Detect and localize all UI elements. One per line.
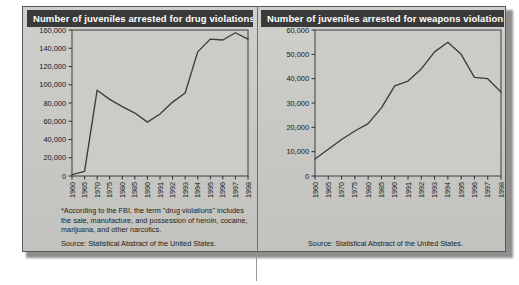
- chart-source-weapons-violations: Source: Statistical Abstract of the Unit…: [308, 239, 508, 249]
- x-axis-tick-label: 1991: [156, 182, 165, 198]
- x-axis-tick-label: 1980: [364, 182, 373, 198]
- panel-drug-violations: Number of juveniles arrested for drug vi…: [23, 7, 257, 253]
- figure-frame: Number of juveniles arrested for drug vi…: [22, 6, 506, 252]
- chart-source-drug-violations: Source: Statistical Abstract of the Unit…: [61, 239, 256, 249]
- x-axis-tick-label: 1990: [390, 182, 399, 198]
- divider-tail: [256, 252, 257, 281]
- y-axis-tick-label: 60,000: [43, 117, 66, 126]
- y-axis-tick-label: 140,000: [39, 44, 66, 53]
- x-axis-tick-label: 1998: [244, 182, 253, 198]
- x-axis-tick-label: 1996: [218, 182, 227, 198]
- y-axis-tick-label: 20,000: [286, 123, 309, 132]
- x-axis-tick-label: 1994: [443, 182, 452, 198]
- figure-root: Number of juveniles arrested for drug vi…: [0, 0, 519, 285]
- x-axis-tick-label: 1970: [337, 182, 346, 198]
- y-axis-tick-label: 100,000: [39, 80, 66, 89]
- chart-footnote-drug-violations: *According to the FBI, the term "drug vi…: [61, 206, 251, 235]
- x-axis-tick-label: 1980: [118, 182, 127, 198]
- x-axis-tick-label: 1975: [350, 182, 359, 198]
- x-axis-tick-label: 1996: [470, 182, 479, 198]
- x-axis-tick-label: 1991: [404, 182, 413, 198]
- panel-weapons-violations: Number of juveniles arrested for weapons…: [258, 7, 507, 253]
- y-axis-tick-label: 20,000: [43, 153, 66, 162]
- y-axis-tick-label: 0: [62, 172, 66, 181]
- y-axis-tick-label: 160,000: [39, 27, 66, 35]
- x-axis-tick-label: 1995: [457, 182, 466, 198]
- plot-area: [72, 30, 248, 176]
- y-axis-tick-label: 60,000: [286, 27, 309, 35]
- y-axis-tick-label: 0: [305, 172, 309, 181]
- y-axis-tick-label: 40,000: [286, 74, 309, 83]
- x-axis-tick-label: 1965: [324, 182, 333, 198]
- y-axis-tick-label: 120,000: [39, 62, 66, 71]
- y-axis-tick-label: 50,000: [286, 50, 309, 59]
- plot-area: [315, 30, 501, 176]
- chart-svg-drug-violations: 020,00040,00060,00080,000100,000120,0001…: [23, 27, 257, 207]
- y-axis-tick-label: 30,000: [286, 99, 309, 108]
- x-axis-tick-label: 1990: [143, 182, 152, 198]
- x-axis-tick-label: 1997: [483, 182, 492, 198]
- y-axis-tick-label: 80,000: [43, 99, 66, 108]
- x-axis-tick-label: 1975: [105, 182, 114, 198]
- x-axis-tick-label: 1960: [311, 182, 320, 198]
- x-axis-tick-label: 1993: [181, 182, 190, 198]
- x-axis-tick-label: 1994: [193, 182, 202, 198]
- y-axis-tick-label: 40,000: [43, 135, 66, 144]
- y-axis-tick-label: 10,000: [286, 147, 309, 156]
- x-axis-tick-label: 1992: [168, 182, 177, 198]
- x-axis-tick-label: 1993: [430, 182, 439, 198]
- x-axis-tick-label: 1997: [231, 182, 240, 198]
- x-axis-tick-label: 1985: [130, 182, 139, 198]
- x-axis-tick-label: 1998: [497, 182, 506, 198]
- x-axis-tick-label: 1960: [68, 182, 77, 198]
- x-axis-tick-label: 1985: [377, 182, 386, 198]
- chart-weapons-violations: 010,00020,00030,00040,00050,00060,000196…: [258, 7, 507, 253]
- x-axis-tick-label: 1965: [80, 182, 89, 198]
- chart-svg-weapons-violations: 010,00020,00030,00040,00050,00060,000196…: [258, 27, 507, 207]
- x-axis-tick-label: 1992: [417, 182, 426, 198]
- x-axis-tick-label: 1995: [206, 182, 215, 198]
- x-axis-tick-label: 1970: [93, 182, 102, 198]
